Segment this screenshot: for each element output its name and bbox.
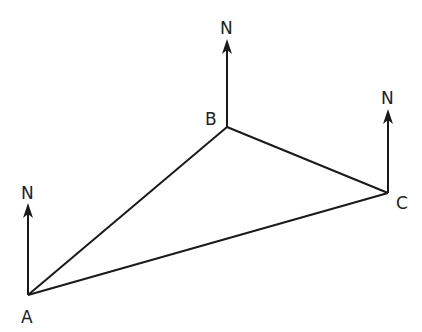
triangle [28, 127, 388, 295]
edge-bc [227, 127, 388, 193]
point-label-b: B [205, 109, 217, 129]
north-label-a: N [21, 183, 34, 203]
point-label-c: C [396, 193, 408, 213]
point-label-a: A [21, 307, 33, 327]
bearing-diagram: N N N A B C [0, 0, 422, 332]
edge-ab [28, 127, 227, 295]
north-label-b: N [220, 18, 233, 38]
edge-ac [28, 193, 388, 295]
north-label-c: N [381, 88, 394, 108]
